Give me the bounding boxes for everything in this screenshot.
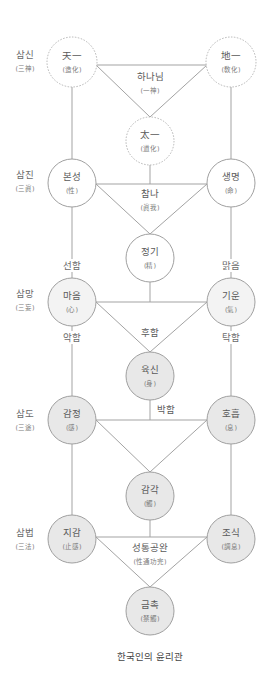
node-bonseong: 본성 (性) [48,159,96,207]
node-label: 天一 [62,50,82,61]
center-label-huham: 후함 [141,327,159,338]
node-label: 地一 [221,50,241,61]
node-sub: (觸) [144,499,156,508]
node-geumchok: 금촉 (禁觸) [126,587,174,635]
node-label: 조식 [222,527,240,538]
node-sub: (精) [144,261,156,270]
row-label-samjin: 삼진 [16,169,34,180]
edge-label-takham: 탁함 [222,332,240,343]
node-sub: (命) [225,186,237,195]
node-label: 호흡 [222,408,240,419]
node-maeum: 마음 (心) [48,278,96,326]
node-jigam: 지감 (止感) [48,515,96,563]
row-hanja-sambeop: (三法) [15,542,34,551]
center-label-hananim: 하나님 [137,71,164,82]
node-label: 지감 [63,527,81,538]
row-hanja-samdo: (三途) [15,423,34,432]
node-gamgak: 감각 (觸) [126,472,174,520]
node-label: 마음 [63,290,81,301]
node-giun: 기운 (氣) [207,278,255,326]
center-sub-chamna: (眞我) [140,203,159,212]
node-label: 감각 [141,484,159,495]
node-hoheup: 호흡 (息) [207,396,255,444]
row-hanja-sammang: (三妄) [15,303,34,312]
center-label-bakham: 박함 [157,404,175,415]
edge-label-akham: 악함 [63,332,81,343]
node-sub: (敎化) [221,65,240,74]
node-yuksin: 육신 (身) [126,352,174,400]
node-saengmyeong: 생명 (命) [207,159,255,207]
ethics-diagram: 선함 맑음 악함 탁함 삼신 (三神) 삼진 (三眞) 삼망 (三妄) 삼도 (… [0,0,271,689]
node-sub: (道化) [140,144,159,153]
node-cheon-il: 天一 (造化) [47,37,97,87]
node-label: 금촉 [141,599,159,610]
diagram-caption: 한국인의 윤리관 [117,651,183,662]
node-josik: 조식 (調息) [207,515,255,563]
row-label-samdo: 삼도 [16,408,34,419]
node-label: 정기 [141,246,159,257]
center-label-chamna: 참나 [141,188,159,199]
center-sub-hananim: (一神) [140,86,159,95]
row-label-samsin: 삼신 [16,49,34,60]
node-label: 기운 [222,290,240,301]
node-gamjeong: 감정 (感) [48,396,96,444]
node-label: 太一 [140,129,160,140]
node-jeonggi: 정기 (精) [126,234,174,282]
node-tae-il: 太一 (道化) [126,117,174,165]
node-sub: (心) [66,306,78,314]
node-sub: (造化) [62,65,81,74]
node-sub: (感) [66,423,78,432]
center-label-seongtong: 성통공완 [132,542,168,553]
node-sub: (氣) [225,305,237,314]
row-hanja-samsin: (三神) [15,64,34,73]
node-sub: (息) [225,423,237,432]
edge-label-malgeum: 맑음 [222,260,240,271]
node-label: 감정 [63,408,81,419]
edge-label-seonham: 선함 [63,260,81,271]
node-sub: (身) [144,379,156,388]
row-label-sammang: 삼망 [16,288,34,299]
row-labels: 삼신 (三神) 삼진 (三眞) 삼망 (三妄) 삼도 (三途) 삼법 (三法) [15,49,34,551]
node-sub: (止感) [62,542,81,551]
node-sub: (調息) [221,542,240,551]
node-label: 육신 [141,364,159,375]
row-hanja-samjin: (三眞) [15,184,34,193]
node-sub: (性) [66,186,78,195]
center-sub-seongtong: (性通功完) [133,557,166,566]
row-label-sambeop: 삼법 [16,527,34,538]
node-label: 생명 [222,171,240,182]
node-ji-il: 地一 (敎化) [206,37,256,87]
node-sub: (禁觸) [140,614,159,623]
node-label: 본성 [63,171,81,182]
